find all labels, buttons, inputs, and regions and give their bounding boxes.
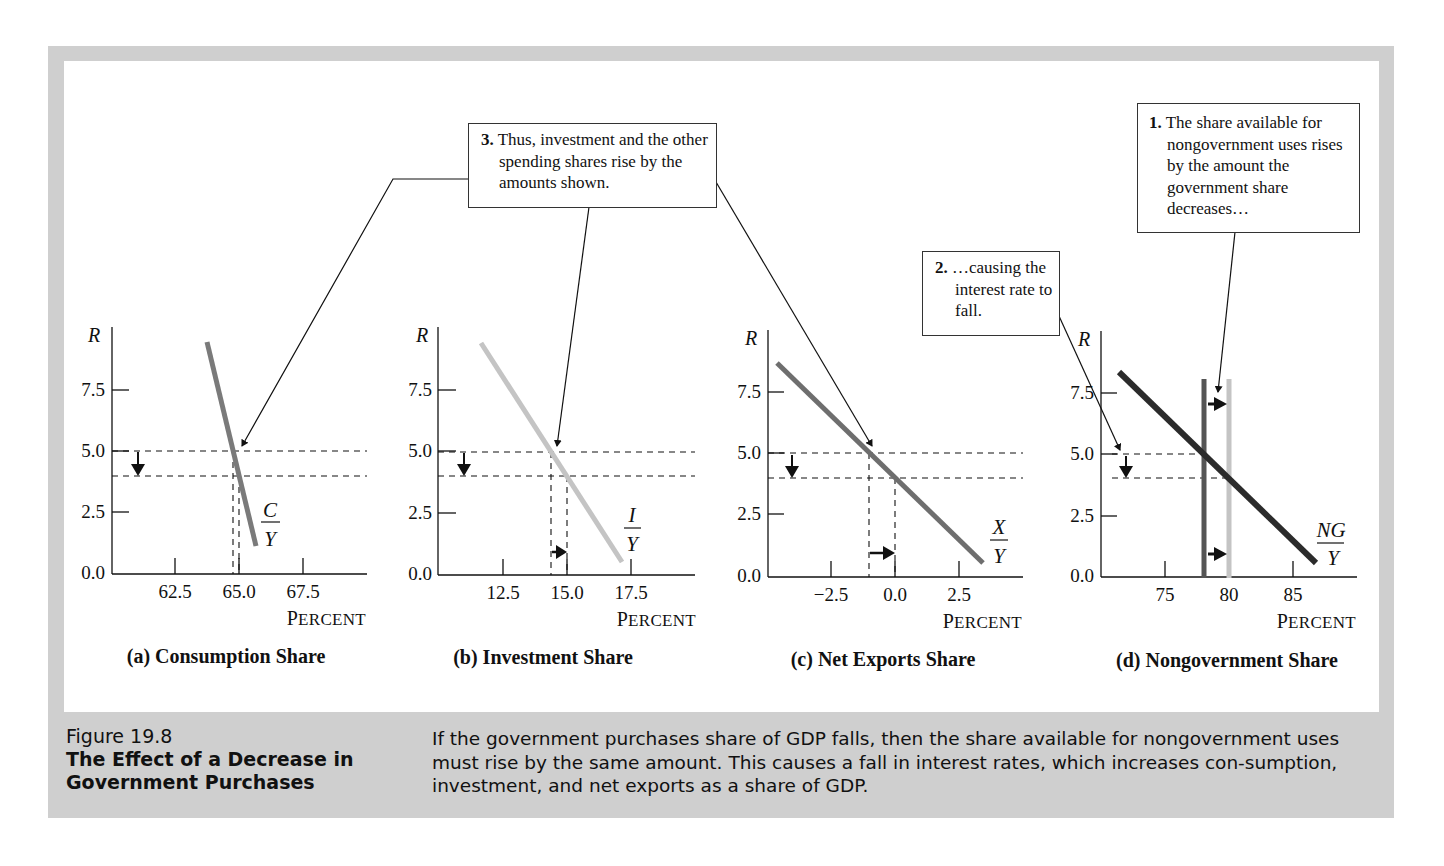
leader-c1-to-panel-d xyxy=(1218,232,1235,392)
svg-text:I: I xyxy=(628,503,637,527)
rate-down-arrow-icon xyxy=(785,455,799,478)
svg-text:2.5: 2.5 xyxy=(408,502,432,523)
curve-label-den: Y xyxy=(264,527,278,551)
svg-text:R: R xyxy=(415,324,428,346)
svg-text:80: 80 xyxy=(1220,584,1239,605)
svg-text:7.5: 7.5 xyxy=(81,379,105,400)
svg-text:PERCENT: PERCENT xyxy=(617,608,697,630)
svg-text:12.5: 12.5 xyxy=(486,582,519,603)
svg-text:Y: Y xyxy=(993,544,1007,568)
net-exports-curve xyxy=(777,363,983,563)
svg-text:PERCENT: PERCENT xyxy=(1277,610,1357,632)
svg-text:(c) Net Exports Share: (c) Net Exports Share xyxy=(791,648,976,671)
svg-text:Y: Y xyxy=(626,532,640,556)
figure-title-line1: The Effect of a Decrease in xyxy=(66,748,406,771)
panel-b-investment: R 7.5 5.0 2.5 0.0 12.5 15.0 17.5 PERCENT… xyxy=(408,324,696,669)
curve-label-num: C xyxy=(263,498,278,522)
svg-text:R: R xyxy=(744,327,757,349)
svg-text:2.5: 2.5 xyxy=(737,503,761,524)
svg-text:(b) Investment Share: (b) Investment Share xyxy=(453,646,633,669)
svg-text:R: R xyxy=(1077,328,1090,350)
svg-text:5.0: 5.0 xyxy=(1070,443,1094,464)
svg-text:−2.5: −2.5 xyxy=(814,584,848,605)
panel-title: (a) Consumption Share xyxy=(127,645,326,668)
svg-text:5.0: 5.0 xyxy=(737,442,761,463)
svg-text:7.5: 7.5 xyxy=(737,381,761,402)
figure-caption-title: Figure 19.8 The Effect of a Decrease in … xyxy=(66,725,406,794)
svg-text:17.5: 17.5 xyxy=(614,582,647,603)
svg-text:75: 75 xyxy=(1156,584,1175,605)
svg-text:NG: NG xyxy=(1315,518,1345,542)
callout-leaders xyxy=(242,179,1235,450)
leader-c3-to-panel-c xyxy=(716,182,872,446)
share-right-arrow-icon xyxy=(552,545,567,559)
share-right-arrow-icon xyxy=(1208,547,1227,561)
svg-text:7.5: 7.5 xyxy=(408,379,432,400)
svg-text:0.0: 0.0 xyxy=(883,584,907,605)
rate-down-arrow-icon xyxy=(457,453,471,476)
figure-title-line2: Government Purchases xyxy=(66,771,406,794)
svg-text:2.5: 2.5 xyxy=(947,584,971,605)
svg-text:85: 85 xyxy=(1284,584,1303,605)
svg-text:0.0: 0.0 xyxy=(81,562,105,583)
share-right-arrow-icon xyxy=(1208,397,1227,411)
rate-down-arrow-icon xyxy=(1119,456,1133,478)
svg-text:67.5: 67.5 xyxy=(286,581,319,602)
figure-number: Figure 19.8 xyxy=(66,725,406,748)
svg-text:7.5: 7.5 xyxy=(1070,382,1094,403)
leader-c3-to-panel-b xyxy=(557,207,589,446)
svg-text:15.0: 15.0 xyxy=(550,582,583,603)
y-axis-label: R xyxy=(87,324,100,346)
svg-text:0.0: 0.0 xyxy=(408,563,432,584)
figure-caption-text: If the government purchases share of GDP… xyxy=(432,727,1362,798)
svg-text:X: X xyxy=(992,515,1007,539)
svg-text:0.0: 0.0 xyxy=(737,565,761,586)
callout-3: 3. Thus, investment and the other spendi… xyxy=(468,123,717,208)
panel-a-consumption: R 7.5 5.0 2.5 0.0 62.5 65.0 67.5 PERCENT… xyxy=(81,324,367,668)
svg-text:2.5: 2.5 xyxy=(81,501,105,522)
svg-text:0.0: 0.0 xyxy=(1070,565,1094,586)
svg-text:PERCENT: PERCENT xyxy=(943,610,1023,632)
svg-text:5.0: 5.0 xyxy=(408,440,432,461)
share-right-arrow-icon xyxy=(870,546,895,560)
rate-down-arrow-icon xyxy=(131,452,145,476)
leader-c3-to-panel-a xyxy=(242,179,468,446)
callout-2: 2. …causing the interest rate to fall. xyxy=(922,251,1060,336)
panel-c-net-exports: R 7.5 5.0 2.5 0.0 −2.5 0.0 2.5 PERCENT X… xyxy=(737,327,1023,671)
svg-text:(d) Nongovernment Share: (d) Nongovernment Share xyxy=(1116,649,1338,672)
x-axis-label: PERCENT xyxy=(287,607,367,629)
svg-text:62.5: 62.5 xyxy=(158,581,191,602)
svg-text:5.0: 5.0 xyxy=(81,440,105,461)
svg-text:65.0: 65.0 xyxy=(222,581,255,602)
consumption-curve xyxy=(207,342,256,546)
callout-1: 1. The share available for nongovernment… xyxy=(1137,103,1360,233)
svg-text:2.5: 2.5 xyxy=(1070,505,1094,526)
panel-d-nongovernment: R 7.5 5.0 2.5 0.0 75 80 85 PERCENT NG Y … xyxy=(1070,328,1357,672)
svg-text:Y: Y xyxy=(1327,546,1341,570)
